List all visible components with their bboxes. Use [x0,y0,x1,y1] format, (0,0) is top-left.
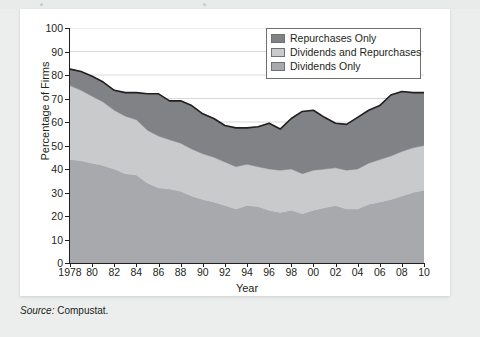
y-tick-label: 70 [37,94,63,104]
y-tick-label: 100 [37,23,63,33]
legend-label: Dividends and Repurchases [290,47,421,58]
top-strip-dot [203,3,206,6]
y-tick-label: 90 [37,47,63,57]
y-tick-label: 20 [37,211,63,221]
legend-label: Repurchases Only [290,33,376,44]
figure-card: Percentage of Firms 01020304050607080901… [20,9,450,296]
y-tick-label: 60 [37,117,63,127]
y-tick-label: 40 [37,164,63,174]
source-note: Source: Compustat. [20,305,108,316]
top-strip-dot [40,3,43,6]
legend-swatch-dividends-only [271,62,285,71]
y-tick-label: 50 [37,141,63,151]
source-label: Source: [20,305,54,316]
legend-item: Repurchases Only [271,32,415,45]
source-value: Compustat. [54,305,108,316]
legend-swatch-dividends-and-repurchases [271,48,285,57]
y-tick-label: 80 [37,70,63,80]
legend-label: Dividends Only [290,61,361,72]
legend-item: Dividends Only [271,60,415,73]
x-tick-label: 10 [409,267,439,278]
figure-page: Percentage of Firms 01020304050607080901… [0,0,480,337]
page-top-strip [0,0,480,9]
y-axis-title: Percentage of Firms [39,46,51,176]
x-axis-title: Year [70,282,424,294]
y-tick-label: 30 [37,188,63,198]
legend-swatch-repurchases-only [271,34,285,43]
y-tick-label: 10 [37,235,63,245]
legend-item: Dividends and Repurchases [271,46,415,59]
chart-legend: Repurchases Only Dividends and Repurchas… [266,28,421,79]
